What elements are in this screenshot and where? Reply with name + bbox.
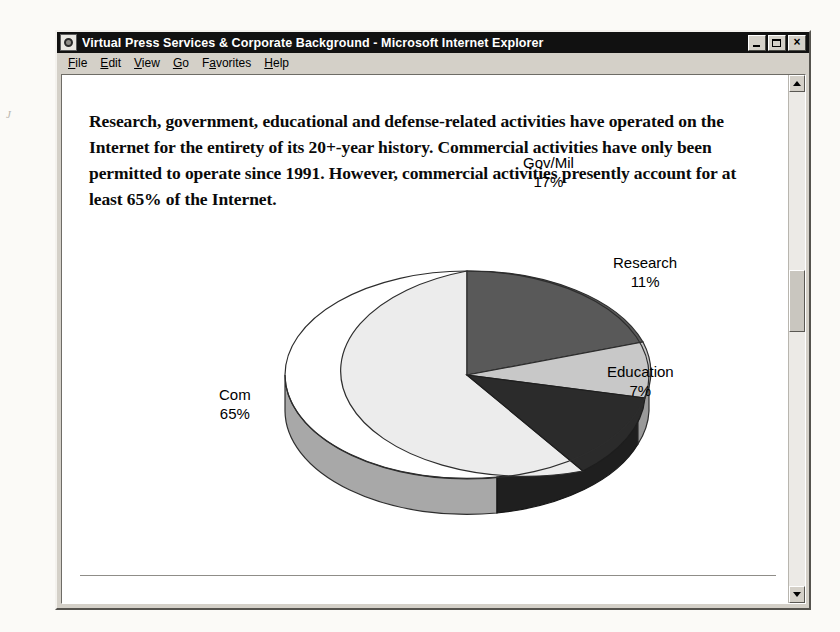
page-paragraph: Research, government, educational and de… — [89, 108, 749, 212]
pie-label-com: Com 65% — [219, 385, 251, 423]
minimize-button[interactable] — [748, 35, 766, 51]
close-icon: × — [793, 36, 800, 48]
restore-button[interactable] — [768, 35, 786, 51]
scan-edge-artifact: J — [6, 108, 11, 120]
pie-chart: Gov/Mil 17% Research 11% Education 7% Co… — [157, 245, 777, 565]
client-area: Research, government, educational and de… — [61, 74, 806, 604]
internet-explorer-icon — [60, 34, 77, 51]
pie-label-research: Research 11% — [613, 253, 677, 291]
window-title: Virtual Press Services & Corporate Backg… — [82, 36, 748, 50]
scroll-up-icon[interactable] — [789, 75, 805, 92]
vertical-scrollbar[interactable] — [788, 75, 805, 603]
close-button[interactable]: × — [788, 35, 806, 51]
document-viewport: Research, government, educational and de… — [62, 75, 788, 603]
menu-item-file[interactable]: File — [62, 55, 94, 71]
menu-item-favorites[interactable]: Favorites — [196, 55, 258, 71]
browser-window: Virtual Press Services & Corporate Backg… — [55, 30, 811, 610]
pie-label-education: Education 7% — [607, 362, 674, 400]
pie-label-gov-mil: Gov/Mil 17% — [523, 153, 574, 191]
menu-item-help[interactable]: Help — [258, 55, 296, 71]
scroll-down-icon[interactable] — [789, 586, 805, 603]
menu-bar: File Edit View Go Favorites Help — [57, 53, 809, 73]
menu-item-view[interactable]: View — [128, 55, 167, 71]
menu-item-edit[interactable]: Edit — [94, 55, 128, 71]
horizontal-rule — [80, 575, 776, 576]
scrollbar-track[interactable] — [789, 92, 805, 586]
menu-item-go[interactable]: Go — [167, 55, 196, 71]
window-controls: × — [748, 35, 807, 51]
scrollbar-thumb[interactable] — [789, 270, 805, 332]
title-bar[interactable]: Virtual Press Services & Corporate Backg… — [57, 32, 809, 53]
